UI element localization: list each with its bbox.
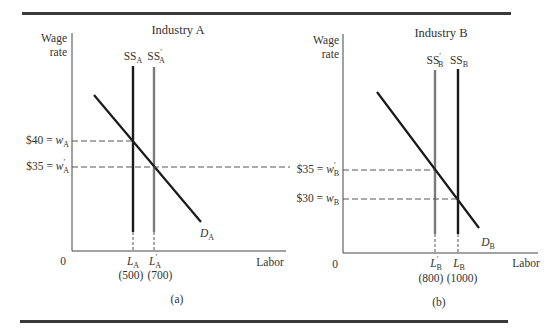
panel-b-y-label-line2: rate <box>322 49 339 61</box>
panel-b-demand-label: DB <box>481 237 495 249</box>
panel-a-wage-35-label: $35 = w′A <box>26 161 69 173</box>
panel-a-la-label: LA <box>127 256 139 268</box>
panel-b-lb-prime-label: L′B <box>430 258 442 270</box>
panel-b-lb-prime-value: (800) <box>419 273 444 285</box>
panel-b-ss-b-prime-label: SS′B <box>427 55 444 67</box>
panel-b-y-label-line1: Wage <box>313 35 339 47</box>
panel-b-x-label: Labor <box>512 258 539 270</box>
panel-b-title: Industry B <box>414 27 467 40</box>
panel-a-ss-a-prime-label: SS′A <box>147 51 164 63</box>
panel-a-title: Industry A <box>151 24 204 37</box>
panel-a-origin: 0 <box>60 256 66 268</box>
panel-a-la-prime-value: (700) <box>148 270 173 282</box>
panel-b-wage-30-label: $30 = wB <box>296 193 339 205</box>
panel-a-caption: (a) <box>171 294 184 306</box>
panel-a-y-label-line1: Wage <box>41 33 67 45</box>
panel-b-lb-value: (1000) <box>447 273 478 285</box>
panel-a-demand-label: DA <box>200 228 214 240</box>
panel-a-demand-da <box>94 95 201 222</box>
panel-a-wage-40-label: $40 = wA <box>26 135 69 147</box>
panel-a-la-value: (500) <box>119 270 144 282</box>
panel-b-demand-db <box>377 92 479 228</box>
panel-a-la-prime-label: L′A <box>149 256 161 268</box>
panel-b-caption: (b) <box>432 297 445 309</box>
panel-a-y-label-line2: rate <box>50 47 67 59</box>
panel-a-x-label: Labor <box>256 257 283 269</box>
panel-b-origin: 0 <box>332 259 338 271</box>
panel-a-graphics <box>72 33 290 251</box>
panel-b-ss-b-label: SSB <box>450 55 468 67</box>
panel-b-wage-35-label: $35 = w′B <box>297 164 339 176</box>
panel-a-ss-a-label: SSA <box>124 51 143 63</box>
panel-b-lb-label: LB <box>453 258 465 270</box>
